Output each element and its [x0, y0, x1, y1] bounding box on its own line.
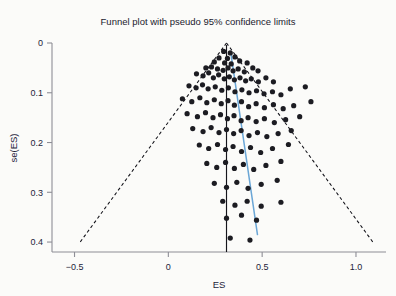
study-point	[286, 142, 291, 147]
study-point	[215, 142, 220, 147]
study-point	[204, 161, 209, 166]
study-point	[239, 87, 244, 92]
study-point	[232, 103, 237, 108]
study-point	[232, 89, 237, 94]
study-point	[231, 113, 236, 118]
study-point	[237, 75, 242, 80]
pseudo-95-ci-right	[227, 43, 373, 242]
study-point	[186, 83, 191, 88]
study-point	[258, 150, 263, 155]
study-point	[180, 96, 185, 101]
study-point	[254, 218, 259, 223]
study-point	[248, 145, 253, 150]
x-axis: −0.500.51.0 ES	[52, 252, 386, 290]
study-point	[215, 66, 220, 71]
study-point	[245, 199, 250, 204]
pseudo-95-ci-left	[80, 43, 226, 242]
study-point	[216, 55, 221, 60]
study-point	[210, 115, 215, 120]
study-point	[228, 50, 233, 55]
study-point	[185, 111, 190, 116]
study-point	[291, 103, 296, 108]
study-point	[224, 127, 229, 132]
study-point	[261, 91, 266, 96]
study-point	[264, 134, 269, 139]
study-point	[225, 116, 230, 121]
y-tick-label: 0.3	[30, 188, 43, 198]
study-point	[209, 64, 214, 69]
study-point	[227, 74, 232, 79]
study-point	[241, 162, 246, 167]
study-point	[297, 114, 302, 119]
study-point	[249, 76, 254, 81]
study-point	[206, 86, 211, 91]
study-point	[246, 104, 251, 109]
study-point	[230, 144, 235, 149]
study-point	[239, 149, 244, 154]
study-point	[211, 75, 216, 80]
study-point	[220, 199, 225, 204]
study-point	[225, 56, 230, 61]
study-point	[216, 130, 221, 135]
study-point	[237, 58, 242, 63]
study-point	[303, 84, 308, 89]
study-point	[212, 97, 217, 102]
y-tick-label: 0.1	[30, 88, 43, 98]
study-point	[255, 130, 260, 135]
study-point	[245, 186, 250, 191]
study-point	[242, 69, 247, 74]
study-point	[271, 79, 276, 84]
study-point	[270, 89, 275, 94]
funnel-plot-canvas: Funnel plot with pseudo 95% confidence l…	[0, 0, 396, 296]
study-point	[225, 98, 230, 103]
study-point	[224, 216, 229, 221]
study-point	[278, 92, 283, 97]
x-axis-title: ES	[213, 279, 226, 290]
study-point	[247, 237, 252, 242]
study-point	[200, 73, 205, 78]
study-point	[263, 75, 268, 80]
study-point	[246, 90, 251, 95]
study-point	[216, 72, 221, 77]
study-point	[226, 85, 231, 90]
study-point	[270, 146, 275, 151]
study-point	[239, 128, 244, 133]
y-tick-label: 0.2	[30, 138, 43, 148]
study-point	[232, 54, 237, 59]
study-point	[221, 68, 226, 73]
study-point	[200, 82, 205, 87]
study-point	[262, 105, 267, 110]
study-point	[204, 100, 209, 105]
study-point	[278, 159, 283, 164]
study-point	[283, 117, 288, 122]
study-point	[189, 99, 194, 104]
study-point	[231, 131, 236, 136]
study-point	[254, 101, 259, 106]
study-point	[197, 142, 202, 147]
study-point	[272, 120, 277, 125]
study-point	[250, 65, 255, 70]
study-point	[194, 85, 199, 90]
study-point	[245, 60, 250, 65]
study-point	[230, 68, 235, 73]
study-point	[219, 101, 224, 106]
scatter-points-layer	[180, 49, 314, 243]
study-point	[259, 204, 264, 209]
study-point	[256, 79, 261, 84]
study-point	[246, 133, 251, 138]
study-point	[223, 160, 228, 165]
chart-title: Funnel plot with pseudo 95% confidence l…	[101, 16, 296, 27]
study-point	[263, 163, 268, 168]
x-tick-label: 1.0	[350, 262, 363, 272]
study-point	[276, 131, 281, 136]
y-axis-title: se(ES)	[8, 133, 19, 162]
study-point	[239, 99, 244, 104]
study-point	[206, 146, 211, 151]
study-point	[234, 180, 239, 185]
study-point	[212, 181, 217, 186]
study-point	[236, 66, 241, 71]
study-point	[228, 235, 233, 240]
study-point	[197, 95, 202, 100]
study-point	[214, 165, 219, 170]
study-point	[289, 128, 294, 133]
